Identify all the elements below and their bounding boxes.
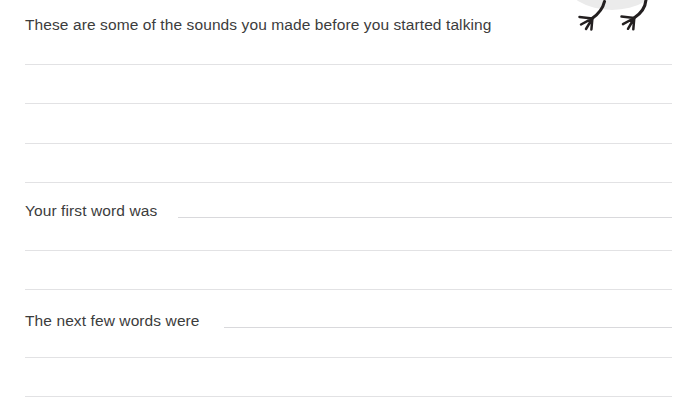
writing-line-1 (25, 64, 672, 65)
writing-line-3 (25, 143, 672, 144)
writing-line-7 (25, 357, 672, 358)
bird-body-shape (566, 0, 658, 10)
prompt-sounds-before-talking: These are some of the sounds you made be… (25, 17, 492, 33)
baby-book-page: These are some of the sounds you made be… (0, 0, 689, 411)
writing-line-2 (25, 103, 672, 104)
writing-line-8 (25, 396, 672, 397)
bird-left-leg (592, 2, 605, 19)
writing-line-4 (25, 182, 672, 183)
writing-line-6 (25, 289, 672, 290)
bird-right-foot (622, 17, 635, 30)
writing-line-5 (25, 250, 672, 251)
answer-line-first-word[interactable] (178, 217, 672, 218)
answer-line-next-few-words[interactable] (224, 327, 672, 328)
bird-left-foot (580, 17, 593, 30)
prompt-next-few-words: The next few words were (25, 313, 200, 329)
prompt-first-word: Your first word was (25, 203, 157, 219)
bird-legs-illustration (548, 0, 676, 56)
bird-right-leg (634, 0, 646, 18)
